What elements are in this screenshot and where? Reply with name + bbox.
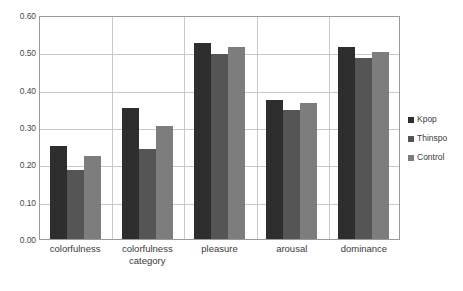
bar: [283, 110, 300, 239]
bar-group: [327, 17, 399, 239]
y-axis-tick-label: 0.10: [4, 198, 36, 207]
legend-swatch-icon: [408, 117, 414, 123]
y-axis-tick-label: 0.40: [4, 86, 36, 95]
bar: [67, 170, 84, 239]
y-axis-tick-label: 0.30: [4, 124, 36, 133]
x-axis-tick-line: colorfulness: [111, 243, 183, 255]
bar: [139, 149, 156, 239]
bar-group: [255, 17, 327, 239]
x-axis-tick-line: dominance: [328, 243, 400, 255]
plot-area: [39, 16, 400, 240]
bar: [50, 146, 67, 239]
bar-group: [184, 17, 256, 239]
bar: [266, 100, 283, 239]
bar: [211, 54, 228, 239]
bar: [355, 58, 372, 239]
x-axis-tick-label: arousal: [256, 243, 328, 267]
x-axis-tick-line: category: [111, 255, 183, 267]
bar: [228, 47, 245, 239]
bars-layer: [40, 17, 399, 239]
y-axis-tick-label: 0.20: [4, 161, 36, 170]
bar-group: [112, 17, 184, 239]
y-axis-tick-label: 0.60: [4, 12, 36, 21]
bar: [84, 156, 101, 239]
legend-item-thinspo[interactable]: Thinspo: [408, 129, 463, 148]
x-axis-tick-label: colorfulnesscategory: [111, 243, 183, 267]
legend-item-control[interactable]: Control: [408, 148, 463, 167]
legend-item-kpop[interactable]: Kpop: [408, 110, 463, 129]
legend-label: Thinspo: [417, 134, 447, 143]
bar-chart: 0.600.500.400.300.200.100.00 colorfulnes…: [0, 0, 463, 291]
x-axis-tick-label: dominance: [328, 243, 400, 267]
x-axis-tick-label: pleasure: [183, 243, 255, 267]
x-axis-tick-line: arousal: [256, 243, 328, 255]
legend-label: Control: [417, 153, 444, 162]
bar: [156, 126, 173, 239]
bar: [122, 108, 139, 239]
legend-label: Kpop: [417, 115, 437, 124]
bar-group: [40, 17, 112, 239]
y-axis-tick-label: 0.50: [4, 49, 36, 58]
x-axis-tick-line: pleasure: [183, 243, 255, 255]
y-axis: 0.600.500.400.300.200.100.00: [0, 16, 36, 240]
bar: [338, 47, 355, 239]
chart-legend: KpopThinspoControl: [408, 110, 463, 167]
x-axis: colorfulnesscolorfulnesscategorypleasure…: [39, 243, 400, 267]
y-axis-tick-label: 0.00: [4, 236, 36, 245]
legend-swatch-icon: [408, 136, 414, 142]
legend-swatch-icon: [408, 155, 414, 161]
bar: [194, 43, 211, 239]
bar: [372, 52, 389, 239]
bar: [300, 103, 317, 239]
x-axis-tick-label: colorfulness: [39, 243, 111, 267]
x-axis-tick-line: colorfulness: [39, 243, 111, 255]
